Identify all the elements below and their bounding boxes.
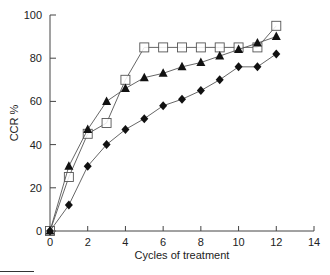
x-tick-label: 2: [85, 236, 91, 248]
triangle-marker: [272, 32, 281, 40]
diamond-marker: [253, 62, 261, 71]
square-marker: [140, 43, 149, 52]
square-marker: [178, 43, 187, 52]
diamond-marker: [197, 86, 205, 95]
y-tick-label: 20: [30, 182, 42, 194]
square-marker: [159, 43, 168, 52]
series-line: [50, 26, 276, 231]
x-tick-label: 14: [308, 236, 320, 248]
triangle-marker: [83, 124, 92, 132]
triangle-marker: [102, 96, 111, 105]
line-chart: 02040608010002468101214 Cycles of treatm…: [0, 0, 330, 275]
diamond-marker: [159, 101, 167, 110]
diamond-marker: [140, 114, 148, 123]
diamond-marker: [235, 62, 243, 71]
diamond-marker: [272, 49, 280, 58]
footnote-rule: [0, 271, 34, 272]
diamond-marker: [121, 125, 129, 134]
y-tick-label: 40: [30, 139, 42, 151]
x-tick-label: 12: [270, 236, 282, 248]
square-marker: [121, 75, 130, 84]
square-marker: [215, 43, 224, 52]
triangle-marker: [64, 161, 73, 170]
series-open-square: [46, 21, 281, 235]
y-tick-label: 80: [30, 52, 42, 64]
x-tick-label: 0: [47, 236, 53, 248]
y-axis-label: CCR %: [8, 104, 20, 141]
y-tick-label: 0: [36, 225, 42, 237]
x-tick-label: 4: [122, 236, 128, 248]
x-tick-label: 10: [232, 236, 244, 248]
series-filled-triangle: [46, 32, 281, 235]
x-axis-label: Cycles of treatment: [135, 249, 230, 261]
x-tick-label: 8: [198, 236, 204, 248]
axes: 02040608010002468101214: [24, 9, 320, 248]
x-tick-label: 6: [160, 236, 166, 248]
square-marker: [102, 119, 111, 128]
series-group: [46, 21, 281, 235]
diamond-marker: [216, 75, 224, 84]
square-marker: [196, 43, 205, 52]
y-tick-label: 100: [24, 9, 42, 21]
square-marker: [272, 21, 281, 30]
diamond-marker: [178, 95, 186, 104]
y-tick-label: 60: [30, 95, 42, 107]
